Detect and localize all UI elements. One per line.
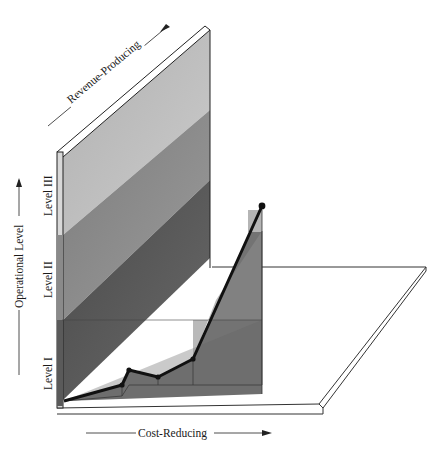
data-point [126,367,131,372]
arrow-head-icon [16,178,22,187]
data-point [190,356,195,361]
level-2-label: Level II [42,261,54,298]
data-point [155,374,160,379]
cost-axis-label: Cost-Reducing [138,427,207,440]
arrow-head-icon [262,430,272,436]
operational-axis: Operational Level [13,178,26,375]
cost-axis: Cost-Reducing [86,425,272,440]
level-labels: Level I Level II Level III [42,175,54,390]
data-point [259,203,266,210]
revenue-axis-label: Revenue-Producing [65,37,144,106]
diagram-canvas: Revenue-Producing Operational Level Leve… [0,0,443,459]
operational-axis-label: Operational Level [13,225,26,308]
level-3-label: Level III [42,175,54,216]
level-1-label: Level I [42,357,54,390]
data-point [119,382,124,387]
arrow-head-icon [160,24,170,32]
